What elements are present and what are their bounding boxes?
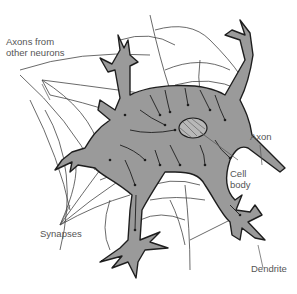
nucleus [179, 118, 207, 138]
label-axons-from-other-neurons-line2: other neurons [6, 47, 65, 58]
label-dendrite: Dendrite [251, 263, 287, 274]
label-cell-body-line1: Cell [230, 168, 246, 179]
neuron-cell [55, 20, 285, 278]
neuron-diagram: Axons from other neurons Axon Cell body … [0, 0, 297, 294]
label-cell-body-line2: body [230, 179, 251, 190]
label-axon: Axon [250, 131, 272, 142]
label-axons-from-other-neurons-line1: Axons from [6, 36, 54, 47]
label-synapses: Synapses [40, 228, 82, 239]
